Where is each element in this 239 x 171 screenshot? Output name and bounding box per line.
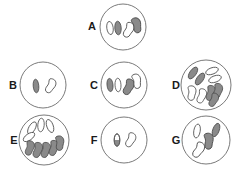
- chromosome-cells-diagram: ABCDEFG: [0, 0, 239, 171]
- cell-c: C: [90, 62, 147, 108]
- cell-label-a: A: [88, 20, 96, 32]
- cell-e: E: [10, 115, 69, 165]
- cell-d: D: [172, 60, 231, 110]
- cell-membrane-d: [181, 60, 231, 110]
- cell-label-e: E: [10, 134, 17, 146]
- cell-label-f: F: [91, 134, 98, 146]
- cell-b: B: [9, 62, 66, 108]
- cell-f: F: [91, 117, 147, 163]
- cell-label-d: D: [172, 79, 180, 91]
- cell-membrane-f: [101, 117, 147, 163]
- cell-membrane-b: [20, 62, 66, 108]
- cell-label-c: C: [90, 79, 98, 91]
- cell-label-b: B: [9, 79, 17, 91]
- cell-label-g: G: [172, 134, 181, 146]
- cells-layer: ABCDEFG: [9, 4, 231, 165]
- cell-g: G: [172, 116, 230, 164]
- cell-a: A: [88, 4, 146, 50]
